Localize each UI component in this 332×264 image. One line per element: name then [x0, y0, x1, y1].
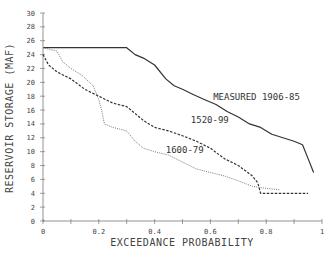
y-tick-label: 24: [27, 51, 35, 59]
y-tick-label: 4: [31, 190, 35, 198]
x-tick-label: 0.2: [92, 228, 105, 236]
y-tick-label: 18: [27, 93, 35, 101]
exceedance-chart: 02468101214161820222426283000.20.40.60.8…: [0, 0, 332, 264]
annotation-label: 1600-79: [166, 145, 204, 155]
y-tick-label: 30: [27, 10, 35, 18]
y-tick-label: 22: [27, 65, 35, 73]
y-tick-label: 20: [27, 79, 35, 87]
series-line-1600-79: [43, 48, 280, 190]
series-line-1520-99: [43, 55, 308, 194]
y-tick-label: 28: [27, 23, 35, 31]
x-tick-label: 0: [41, 228, 45, 236]
x-tick-label: 0.8: [260, 228, 273, 236]
y-tick-label: 8: [31, 162, 35, 170]
x-tick-label: 0.4: [148, 228, 161, 236]
y-tick-label: 16: [27, 107, 35, 115]
y-tick-label: 6: [31, 176, 35, 184]
y-tick-label: 10: [27, 148, 35, 156]
annotation-label: MEASURED 1906-85: [213, 92, 300, 102]
x-tick-label: 1: [320, 228, 324, 236]
y-tick-label: 26: [27, 37, 35, 45]
y-tick-label: 14: [27, 120, 35, 128]
y-tick-label: 2: [31, 204, 35, 212]
x-tick-label: 0.6: [204, 228, 217, 236]
annotations: MEASURED 1906-851520-991600-79: [166, 92, 300, 155]
x-axis-title: EXCEEDANCE PROBABILITY: [110, 237, 253, 248]
axes: 02468101214161820222426283000.20.40.60.8…: [27, 10, 325, 237]
annotation-label: 1520-99: [191, 115, 229, 125]
y-axis-title: RESERVOIR STORAGE (MAF): [4, 43, 15, 193]
y-tick-label: 0: [31, 218, 35, 226]
data-series: [43, 48, 314, 194]
y-tick-label: 12: [27, 134, 35, 142]
